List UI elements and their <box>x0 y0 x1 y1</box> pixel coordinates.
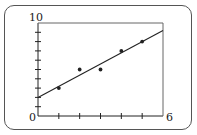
regression-line <box>38 30 163 97</box>
data-point <box>119 49 123 53</box>
x-max-label: 6 <box>166 111 173 124</box>
data-point <box>140 40 144 44</box>
origin-label: 0 <box>29 111 36 124</box>
best-fit-line <box>38 30 163 97</box>
data-point <box>57 86 61 90</box>
axis-ticks <box>35 32 142 119</box>
y-max-label: 10 <box>29 11 43 24</box>
scatter-plot: 10 0 6 <box>0 0 197 135</box>
data-point <box>78 68 82 72</box>
data-point <box>99 68 103 72</box>
